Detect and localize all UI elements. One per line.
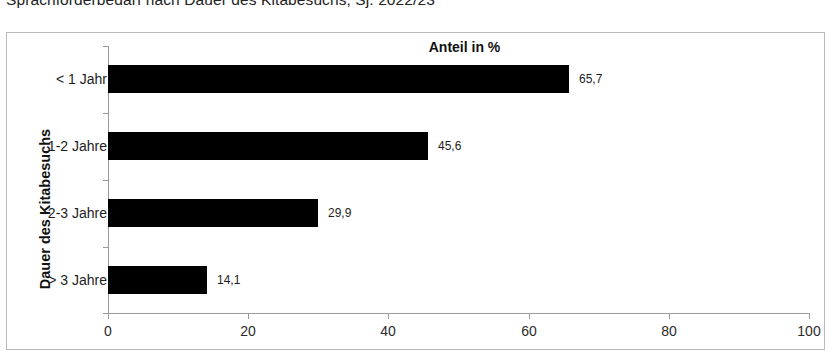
x-tick-label: 60 xyxy=(521,323,537,339)
x-axis-tick xyxy=(529,314,530,319)
x-axis-tick xyxy=(669,314,670,319)
x-axis-tick xyxy=(809,314,810,319)
bar-value-label: 14,1 xyxy=(217,273,240,287)
bar-1-2-jahre[interactable] xyxy=(108,132,428,160)
bar-gt-3-jahre[interactable] xyxy=(108,266,207,294)
bar-value-label: 65,7 xyxy=(579,72,602,86)
x-tick-label: 80 xyxy=(661,323,677,339)
y-axis-tick xyxy=(103,247,108,248)
x-axis-tick xyxy=(248,314,249,319)
bar-value-label: 29,9 xyxy=(328,206,351,220)
bar-lt-1-jahr[interactable] xyxy=(108,65,569,93)
chart-frame: Anteil in % Dauer des Kitabesuchs 0 20 4… xyxy=(6,32,825,350)
x-axis-tick xyxy=(388,314,389,319)
category-label: > 3 Jahre xyxy=(0,272,107,288)
x-axis-tick xyxy=(108,314,109,319)
y-axis-tick xyxy=(103,46,108,47)
x-tick-label: 0 xyxy=(104,323,112,339)
x-tick-label: 20 xyxy=(240,323,256,339)
plot-area: 0 20 40 60 80 100 < 1 Jahr 1-2 Jahre 2-3… xyxy=(108,33,816,351)
category-label: < 1 Jahr xyxy=(0,71,107,87)
bar-value-label: 45,6 xyxy=(438,139,461,153)
category-label: 2-3 Jahre xyxy=(0,205,107,221)
bar-2-3-jahre[interactable] xyxy=(108,199,318,227)
page-title: Sprachförderbedarf nach Dauer des Kitabe… xyxy=(6,0,435,9)
y-axis-tick xyxy=(103,113,108,114)
x-axis-line xyxy=(108,313,810,314)
x-tick-label: 100 xyxy=(797,323,820,339)
category-label: 1-2 Jahre xyxy=(0,138,107,154)
x-tick-label: 40 xyxy=(380,323,396,339)
y-axis-tick xyxy=(103,180,108,181)
